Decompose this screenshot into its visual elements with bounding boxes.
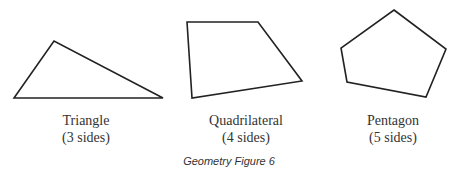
- triangle-sides: (3 sides): [16, 129, 156, 146]
- triangle-name: Triangle: [16, 112, 156, 129]
- pentagon-label: Pentagon (5 sides): [323, 112, 458, 146]
- triangle-shape: [14, 41, 163, 98]
- quadrilateral-sides: (4 sides): [176, 129, 316, 146]
- quadrilateral-label: Quadrilateral (4 sides): [176, 112, 316, 146]
- quadrilateral-shape: [187, 22, 302, 98]
- pentagon-name: Pentagon: [323, 112, 458, 129]
- figure-caption: Geometry Figure 6: [0, 155, 458, 167]
- shapes-canvas: [0, 0, 458, 174]
- pentagon-sides: (5 sides): [323, 129, 458, 146]
- pentagon-shape: [341, 10, 446, 97]
- quadrilateral-name: Quadrilateral: [176, 112, 316, 129]
- triangle-label: Triangle (3 sides): [16, 112, 156, 146]
